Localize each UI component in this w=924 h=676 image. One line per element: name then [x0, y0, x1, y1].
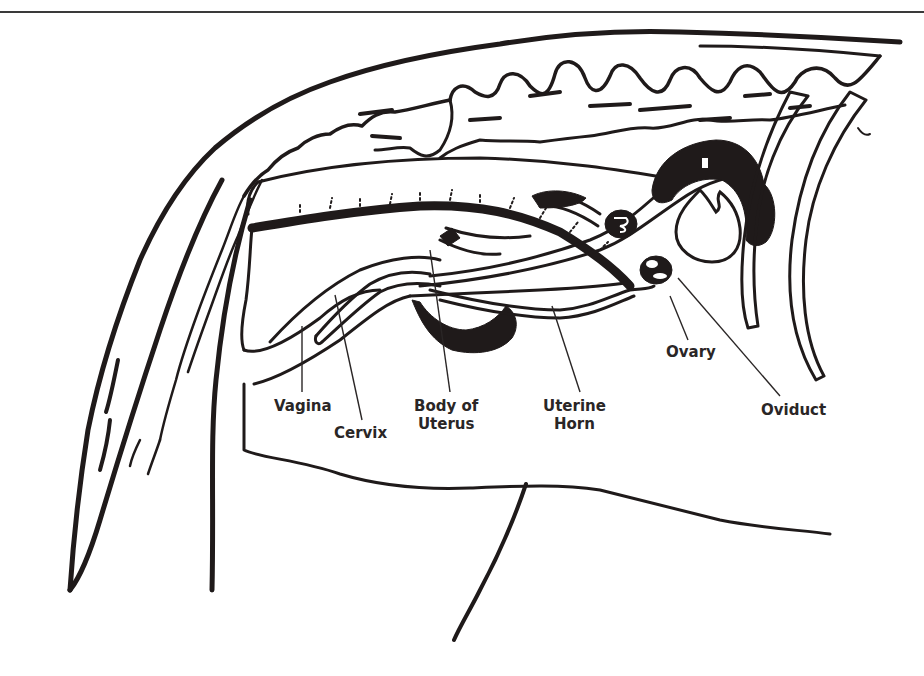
leader-lines	[302, 250, 780, 420]
label-uterine-horn: Uterine Horn	[543, 397, 606, 433]
anatomy-illustration	[0, 0, 924, 676]
label-ovary: Ovary	[666, 343, 716, 361]
label-oviduct: Oviduct	[761, 401, 826, 419]
leader-oviduct	[678, 278, 780, 396]
vagina-cervix	[254, 257, 440, 384]
leader-cervix	[335, 295, 362, 420]
leader-ovary	[670, 296, 688, 340]
label-vagina: Vagina	[274, 397, 332, 415]
anatomy-diagram: Vagina Cervix Body of Uterus Uterine Hor…	[0, 0, 924, 676]
label-cervix: Cervix	[334, 424, 387, 442]
label-body-of-uterus: Body of Uterus	[414, 397, 478, 433]
bladder	[412, 300, 516, 353]
